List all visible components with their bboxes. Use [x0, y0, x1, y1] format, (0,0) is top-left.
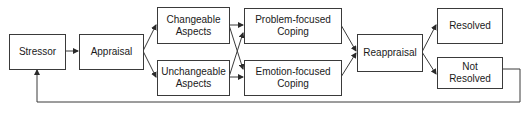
arrow-unchangeable-problem [229, 33, 243, 77]
node-label-line1: Not [462, 61, 478, 73]
node-label-line2: Aspects [176, 26, 212, 38]
arrow-changeable-emotion [229, 25, 243, 69]
node-label: Reappraisal [363, 47, 416, 59]
node-not-resolved: Not Resolved [437, 57, 503, 89]
node-label-line1: Emotion-focused [255, 66, 330, 78]
arrow-reappraisal-resolved [422, 25, 436, 52]
node-problem-focused-coping: Problem-focused Coping [244, 8, 342, 44]
node-label-line2: Aspects [176, 78, 212, 90]
arrow-appraisal-unchangeable [143, 51, 156, 77]
node-appraisal: Appraisal [79, 34, 144, 70]
node-emotion-focused-coping: Emotion-focused Coping [244, 60, 342, 96]
arrow-emotion-reappraisal [341, 53, 356, 77]
node-unchangeable-aspects: Unchangeable Aspects [157, 60, 230, 96]
node-label: Appraisal [91, 46, 133, 58]
node-label-line2: Coping [277, 26, 309, 38]
node-label-line2: Coping [277, 78, 309, 90]
node-label: Resolved [449, 20, 491, 32]
node-changeable-aspects: Changeable Aspects [157, 7, 230, 44]
node-reappraisal: Reappraisal [357, 34, 423, 72]
node-label-line1: Changeable [167, 14, 221, 26]
arrow-appraisal-changeable [143, 25, 156, 51]
arrow-reappraisal-notresolved [422, 52, 436, 74]
node-resolved: Resolved [437, 8, 503, 44]
node-label-line2: Resolved [449, 73, 491, 85]
node-stressor: Stressor [9, 34, 66, 70]
node-label: Stressor [19, 46, 56, 58]
arrow-problem-reappraisal [341, 25, 356, 51]
node-label-line1: Unchangeable [161, 66, 226, 78]
node-label-line1: Problem-focused [255, 14, 331, 26]
